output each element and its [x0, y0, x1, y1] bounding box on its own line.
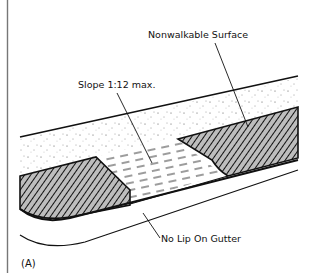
leader-gutter	[143, 213, 160, 238]
panel-label: (A)	[21, 258, 36, 269]
curb-ramp-diagram: Nonwalkable Surface Slope 1:12 max. No L…	[0, 0, 316, 273]
label-nonwalkable-surface: Nonwalkable Surface	[148, 29, 248, 40]
label-slope: Slope 1:12 max.	[78, 79, 155, 90]
label-no-lip-on-gutter: No Lip On Gutter	[161, 233, 241, 244]
